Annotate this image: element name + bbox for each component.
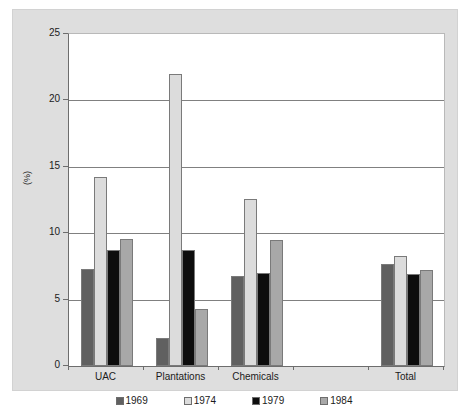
legend-item-label: 1979 xyxy=(262,396,284,406)
x-axis-tick-mark xyxy=(368,366,369,370)
x-axis-tick-mark xyxy=(443,366,444,370)
bar xyxy=(94,177,107,366)
legend-swatch-icon xyxy=(320,397,328,405)
chart-legend: 1969197419791984 xyxy=(0,396,468,406)
bar xyxy=(420,270,433,366)
bar xyxy=(120,239,133,366)
bar xyxy=(195,309,208,366)
bar xyxy=(244,199,257,366)
x-axis-tick-mark xyxy=(293,366,294,370)
legend-item[interactable]: 1979 xyxy=(252,396,284,406)
legend-swatch-icon xyxy=(252,397,260,405)
bar xyxy=(107,250,120,366)
bar xyxy=(407,274,420,366)
x-axis-tick-mark xyxy=(218,366,219,370)
legend-item[interactable]: 1969 xyxy=(116,396,148,406)
legend-item-label: 1984 xyxy=(330,396,352,406)
x-axis-tick-label: Chemicals xyxy=(211,371,301,383)
gridline xyxy=(69,233,444,234)
legend-item-label: 1974 xyxy=(194,396,216,406)
legend-swatch-icon xyxy=(184,397,192,405)
bar xyxy=(182,250,195,366)
gridline xyxy=(69,100,444,101)
x-axis-origin-tick-mark xyxy=(68,366,69,370)
y-axis-tick-label: 15 xyxy=(30,161,60,171)
bar xyxy=(257,273,270,366)
legend-item[interactable]: 1984 xyxy=(320,396,352,406)
y-axis-tick-label: 25 xyxy=(30,28,60,38)
x-axis-tick-mark xyxy=(143,366,144,370)
bar xyxy=(81,269,94,366)
y-axis-tick-label: 20 xyxy=(30,94,60,104)
bar xyxy=(394,256,407,366)
bar xyxy=(231,276,244,366)
legend-item-label: 1969 xyxy=(126,396,148,406)
y-axis-tick-label: 0 xyxy=(30,360,60,370)
legend-swatch-icon xyxy=(116,397,124,405)
bar xyxy=(381,264,394,366)
y-axis-label: (%) xyxy=(22,171,32,185)
bar xyxy=(156,338,169,366)
plot-area xyxy=(68,33,445,367)
x-axis-tick-label: Total xyxy=(361,371,451,383)
bar-chart-figure: (%) 0510152025 UACPlantationsChemicalsTo… xyxy=(0,0,468,419)
legend-item[interactable]: 1974 xyxy=(184,396,216,406)
y-axis-tick-label: 10 xyxy=(30,227,60,237)
bar xyxy=(270,240,283,366)
bar xyxy=(169,74,182,366)
gridline xyxy=(69,167,444,168)
y-axis-tick-label: 5 xyxy=(30,294,60,304)
